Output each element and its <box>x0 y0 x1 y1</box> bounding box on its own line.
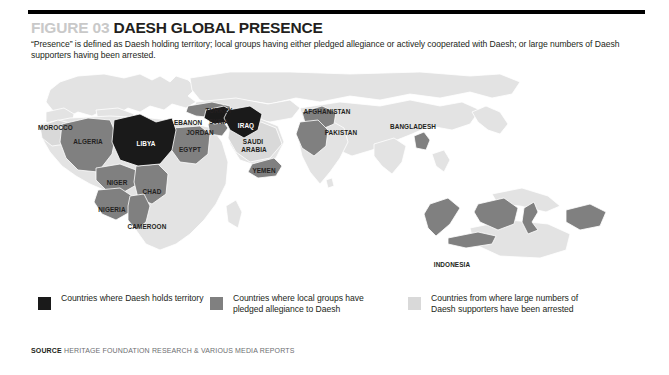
map-label-nigeria: NIGERIA <box>98 206 126 213</box>
map-label-saudi-line2: ARABIA <box>241 146 267 153</box>
figure-subtitle: “Presence” is defined as Daesh holding t… <box>31 39 639 61</box>
indochina-land <box>374 138 406 174</box>
map-label-egypt: EGYPT <box>179 146 201 153</box>
page-title: FIGURE 03 DAESH GLOBAL PRESENCE <box>31 19 323 37</box>
map-label-cameroon: CAMEROON <box>128 223 167 230</box>
source-label: SOURCE <box>31 347 62 354</box>
map-label-libya: LIBYA <box>136 140 155 147</box>
country-bangladesh <box>414 132 430 150</box>
legend-swatch-mid-gray <box>210 297 223 310</box>
country-indonesia-sumatra <box>424 198 460 236</box>
map-label-morocco: MOROCCO <box>38 124 73 131</box>
legend-label-supporters-arrested: Countries from where large numbers of Da… <box>431 293 603 316</box>
figure-page: FIGURE 03 DAESH GLOBAL PRESENCE “Presenc… <box>0 0 669 375</box>
legend-swatch-black <box>38 297 51 310</box>
map-label-syria: SYRIA <box>209 118 229 125</box>
source-text: HERITAGE FOUNDATION RESEARCH & VARIOUS M… <box>64 347 295 354</box>
figure-title-text: DAESH GLOBAL PRESENCE <box>113 19 322 36</box>
country-indonesia-borneo <box>474 198 518 230</box>
legend-label-holds-territory: Countries where Daesh holds territory <box>61 293 203 304</box>
map-label-jordan: JORDAN <box>186 129 214 136</box>
map-label-bangladesh: BANGLADESH <box>390 123 436 130</box>
world-map: MOROCCO ALGERIA LIBYA EGYPT NIGER CHAD N… <box>0 72 669 287</box>
sri-lanka-land <box>326 178 334 188</box>
country-indonesia-papua <box>566 204 606 230</box>
map-label-niger: NIGER <box>107 179 128 186</box>
map-label-algeria: ALGERIA <box>73 138 103 145</box>
madagascar-land <box>226 200 242 228</box>
korea-japan-land <box>472 106 508 134</box>
map-label-turkey: TURKEY <box>206 107 234 114</box>
map-label-chad: CHAD <box>143 188 162 195</box>
map-label-pakistan: PAKISTAN <box>325 129 358 136</box>
legend: Countries where Daesh holds territory Co… <box>31 293 641 341</box>
header-rule <box>28 10 645 14</box>
map-label-indonesia: INDONESIA <box>434 261 471 268</box>
map-label-yemen: YEMEN <box>252 167 276 174</box>
country-nigeria <box>94 188 132 220</box>
map-label-iraq: IRAQ <box>238 122 254 130</box>
map-label-lebanon: LEBANON <box>170 119 203 126</box>
map-label-afghanistan: AFGHANISTAN <box>303 108 350 115</box>
map-label-saudi-arabia: SAUDI ARABIA <box>241 138 267 153</box>
philippines-land <box>432 150 450 172</box>
source-line: SOURCE HERITAGE FOUNDATION RESEARCH & VA… <box>31 347 295 354</box>
figure-number: FIGURE 03 <box>31 19 109 36</box>
map-label-saudi-line1: SAUDI <box>243 138 264 145</box>
legend-swatch-light-gray <box>408 297 421 310</box>
legend-label-pledged-allegiance: Countries where local groups have pledge… <box>233 293 390 316</box>
